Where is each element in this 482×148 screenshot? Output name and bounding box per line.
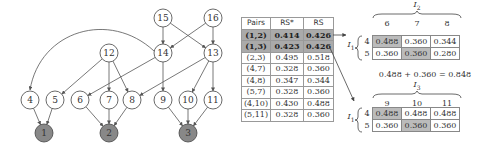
svg-text:12: 12 bbox=[103, 48, 114, 58]
header-pairs: Pairs bbox=[242, 18, 271, 30]
cell-rs-star: 0.347 bbox=[271, 75, 304, 87]
matrix2-cell: 0.488 bbox=[402, 108, 431, 120]
graph-node-1: 1 bbox=[35, 124, 53, 142]
header-rs-star: RS* bbox=[271, 18, 304, 30]
matrix1-col-header: 7 bbox=[402, 19, 432, 28]
matrix2-cell: 0.488 bbox=[373, 108, 402, 120]
matrix1-cell: 0.344 bbox=[431, 36, 460, 48]
svg-text:10: 10 bbox=[182, 95, 194, 105]
cell-rs: 0.426 bbox=[304, 41, 334, 53]
cell-pair: (4,7) bbox=[242, 64, 271, 76]
edge-12-8 bbox=[113, 61, 128, 92]
matrix1-cell: 0.360 bbox=[373, 48, 402, 60]
table-header-row: Pairs RS* RS bbox=[242, 18, 334, 30]
edge-4-1 bbox=[34, 108, 41, 124]
cell-pair: (4,8) bbox=[242, 75, 271, 87]
cell-rs: 0.426 bbox=[304, 29, 334, 41]
graph-node-6: 6 bbox=[71, 91, 89, 109]
edge-14-4 bbox=[30, 29, 154, 90]
matrix1-row: 50.3600.3600.280 bbox=[362, 48, 460, 60]
cell-pair: (2,3) bbox=[242, 52, 271, 64]
cell-rs-star: 0.414 bbox=[271, 29, 304, 41]
cell-pair: (5,11) bbox=[242, 110, 271, 122]
graph-node-4: 4 bbox=[21, 91, 39, 109]
svg-text:5: 5 bbox=[52, 95, 58, 105]
matrix1-col-header: 6 bbox=[372, 19, 402, 28]
cell-pair: (4,10) bbox=[242, 98, 271, 110]
cell-pair: (5,7) bbox=[242, 87, 271, 99]
cell-pair: (1,2) bbox=[242, 29, 271, 41]
matrix2-cell: 0.360 bbox=[373, 120, 402, 132]
graph-node-2: 2 bbox=[100, 124, 118, 142]
graph-node-9: 9 bbox=[154, 91, 172, 109]
matrix2-top-brace bbox=[372, 91, 462, 99]
graph-node-11: 11 bbox=[204, 91, 222, 109]
cell-rs: 0.360 bbox=[304, 110, 334, 122]
svg-text:6: 6 bbox=[77, 95, 83, 105]
svg-text:14: 14 bbox=[157, 48, 169, 58]
cell-rs: 0.360 bbox=[304, 64, 334, 76]
graph-node-8: 8 bbox=[123, 91, 141, 109]
cell-rs-star: 0.328 bbox=[271, 110, 304, 122]
cell-rs-star: 0.328 bbox=[271, 87, 304, 99]
svg-text:13: 13 bbox=[207, 48, 219, 58]
matrix1-row-label: 5 bbox=[362, 48, 373, 60]
matrix2-cell: 0.488 bbox=[431, 108, 460, 120]
matrix2-col-set-label: I3 bbox=[402, 80, 432, 91]
edge-6-2 bbox=[86, 107, 103, 126]
graph-node-13: 13 bbox=[204, 44, 222, 62]
table-row: (5,7)0.3280.360 bbox=[242, 87, 334, 99]
cell-rs-star: 0.495 bbox=[271, 52, 304, 64]
edge-5-1 bbox=[47, 109, 52, 125]
cell-rs-star: 0.328 bbox=[271, 64, 304, 76]
svg-text:16: 16 bbox=[207, 13, 219, 23]
svg-text:4: 4 bbox=[27, 95, 33, 105]
svg-text:9: 9 bbox=[160, 95, 166, 105]
table-row: (5,11)0.3280.360 bbox=[242, 110, 334, 122]
cell-rs: 0.360 bbox=[304, 87, 334, 99]
matrix2-cell: 0.360 bbox=[431, 120, 460, 132]
matrix2-cell: 0.360 bbox=[402, 120, 431, 132]
graph-node-5: 5 bbox=[46, 91, 64, 109]
svg-text:7: 7 bbox=[106, 95, 112, 105]
graph-node-12: 12 bbox=[100, 44, 118, 62]
matrix1-cell: 0.360 bbox=[402, 48, 431, 60]
table-row: (4,7)0.3280.360 bbox=[242, 64, 334, 76]
edge-11-3 bbox=[193, 107, 207, 126]
graph-node-14: 14 bbox=[154, 44, 172, 62]
matrix1-cell: 0.360 bbox=[402, 36, 431, 48]
graph-node-10: 10 bbox=[179, 91, 197, 109]
matrix1-row-label: 4 bbox=[362, 36, 373, 48]
header-rs: RS bbox=[304, 18, 334, 30]
svg-text:8: 8 bbox=[129, 95, 135, 105]
svg-text:3: 3 bbox=[185, 128, 191, 138]
matrix2-row-label: 4 bbox=[362, 108, 373, 120]
graph-node-15: 15 bbox=[154, 9, 172, 27]
dependency-graph: 15161214134567891011123 bbox=[0, 0, 240, 148]
edge-9-3 bbox=[168, 107, 182, 126]
cell-rs-star: 0.430 bbox=[271, 98, 304, 110]
edge-8-2 bbox=[114, 107, 127, 125]
matrix2-table: 40.4880.4880.48850.3600.3600.360 bbox=[362, 107, 460, 132]
graph-node-3: 3 bbox=[179, 124, 197, 142]
matrix1-cell: 0.280 bbox=[431, 48, 460, 60]
matrix1-col-set-label: I2 bbox=[402, 0, 432, 11]
svg-text:1: 1 bbox=[41, 128, 47, 138]
matrix2-row: 50.3600.3600.360 bbox=[362, 120, 460, 132]
graph-node-7: 7 bbox=[100, 91, 118, 109]
table-row: (4,10)0.4300.488 bbox=[242, 98, 334, 110]
edge-13-10 bbox=[192, 61, 209, 92]
table-row: (1,3)0.4230.426 bbox=[242, 41, 334, 53]
matrix2-row: 40.4880.4880.488 bbox=[362, 108, 460, 120]
table-row: (4,8)0.3470.344 bbox=[242, 75, 334, 87]
cell-rs: 0.488 bbox=[304, 98, 334, 110]
table-row: (2,3)0.4950.518 bbox=[242, 52, 334, 64]
matrix1-cell: 0.488 bbox=[373, 36, 402, 48]
cell-rs: 0.518 bbox=[304, 52, 334, 64]
matrix1-col-header: 8 bbox=[432, 19, 462, 28]
matrix1-row: 40.4880.3600.344 bbox=[362, 36, 460, 48]
cell-rs: 0.344 bbox=[304, 75, 334, 87]
sum-equation: 0.488 + 0.360 = 0.848 bbox=[370, 70, 480, 79]
matrix1-table: 40.4880.3600.34450.3600.3600.280 bbox=[362, 35, 460, 60]
svg-text:15: 15 bbox=[157, 13, 169, 23]
